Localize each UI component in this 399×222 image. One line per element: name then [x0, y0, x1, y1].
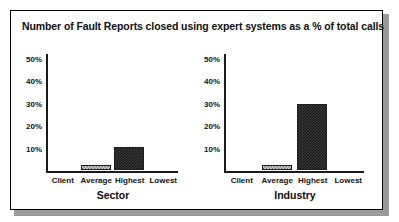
x-label-lowest: Lowest [331, 176, 367, 185]
y-tick-label-20: 20% [204, 122, 220, 131]
chart-panel-sector: 50% 40% 30% 20% 10% Client [18, 50, 193, 205]
y-tick-label-10: 10% [204, 144, 220, 153]
x-label-highest: Highest [113, 176, 147, 185]
x-label-average: Average [260, 176, 296, 185]
panel-title-sector: Sector [46, 189, 180, 201]
x-axis-labels-industry: Client Average Highest Lowest [224, 176, 366, 185]
bar-slot-highest [113, 57, 146, 170]
bar-slot-average [260, 57, 295, 170]
bar-highest [297, 104, 327, 170]
figure-canvas: Number of Fault Reports closed using exp… [0, 0, 399, 222]
x-label-average: Average [80, 176, 114, 185]
y-tick-label-20: 20% [26, 122, 42, 131]
chart-panel-industry: 50% 40% 30% 20% 10% Client [196, 50, 376, 205]
bar-slot-lowest [145, 57, 178, 170]
x-axis-line-sector [46, 171, 178, 173]
y-tick-label-50: 50% [26, 54, 42, 63]
bar-slot-lowest [329, 57, 364, 170]
bar-slot-highest [295, 57, 330, 170]
bar-highest [114, 147, 144, 170]
y-tick-label-10: 10% [26, 144, 42, 153]
bar-average [81, 165, 111, 170]
y-tick-label-40: 40% [26, 77, 42, 86]
bar-average [262, 165, 292, 170]
bar-slot-client [48, 57, 81, 170]
y-tick-label-40: 40% [204, 77, 220, 86]
x-axis-line-industry [224, 171, 364, 173]
x-label-lowest: Lowest [147, 176, 181, 185]
x-label-highest: Highest [295, 176, 331, 185]
plot-area-sector: 50% 40% 30% 20% 10% [46, 54, 178, 174]
panel-title-industry: Industry [224, 189, 366, 201]
y-tick-label-30: 30% [204, 99, 220, 108]
x-label-client: Client [224, 176, 260, 185]
bar-slot-client [226, 57, 261, 170]
bar-group-industry [226, 57, 364, 170]
bar-slot-average [80, 57, 113, 170]
y-tick-label-30: 30% [26, 99, 42, 108]
x-label-client: Client [46, 176, 80, 185]
bar-group-sector [48, 57, 178, 170]
plot-area-industry: 50% 40% 30% 20% 10% [224, 54, 364, 174]
x-axis-labels-sector: Client Average Highest Lowest [46, 176, 180, 185]
y-tick-label-50: 50% [204, 54, 220, 63]
chart-title: Number of Fault Reports closed using exp… [22, 20, 374, 32]
